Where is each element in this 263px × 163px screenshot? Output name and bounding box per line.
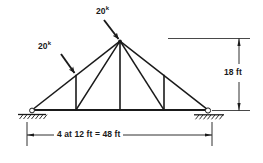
right-support-roller-icon: [205, 108, 210, 113]
apex-load-arrow: [104, 20, 119, 39]
web-diagonal-left: [76, 41, 120, 110]
apex-load-label: 20k: [96, 6, 109, 16]
apex-load-value: 20: [96, 6, 106, 16]
apex-joint: [118, 40, 122, 44]
truss-members: [32, 41, 208, 110]
left-load-value: 20: [38, 41, 48, 51]
span-dimension-label: 4 at 12 ft = 48 ft: [54, 129, 123, 139]
web-diagonal-right: [120, 41, 164, 110]
left-load-label: 20k: [38, 41, 51, 51]
apex-load-unit: k: [106, 5, 109, 11]
left-load-arrow: [61, 54, 75, 73]
left-support-hatch-icon: [20, 115, 48, 119]
right-support-hatch-icon: [196, 115, 224, 119]
truss-drawing: [0, 0, 263, 163]
height-dimension-label: 18 ft: [224, 67, 242, 77]
left-load-unit: k: [48, 40, 51, 46]
truss-diagram-figure: 20k 20k 18 ft 4 at 12 ft = 48 ft: [0, 0, 263, 163]
left-support-pin-icon: [30, 108, 35, 113]
